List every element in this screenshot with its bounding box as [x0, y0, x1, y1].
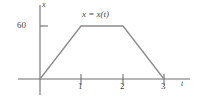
y-tick-label-60: 60: [17, 21, 26, 30]
x-tick-label-1: 1: [78, 82, 83, 91]
horizontal-axis-label: t: [181, 80, 183, 88]
curve-x-of-t: [40, 26, 164, 79]
curve-label: x = x(t): [82, 10, 109, 19]
x-tick-label-3: 3: [161, 82, 166, 91]
graph-figure: x t 60 x = x(t) 1 2 3: [0, 0, 203, 100]
x-tick-label-2: 2: [120, 82, 125, 91]
vertical-axis-label: x: [42, 1, 46, 9]
